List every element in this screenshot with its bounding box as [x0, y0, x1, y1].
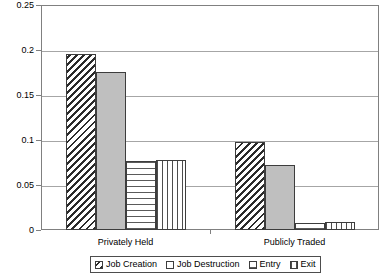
- x-axis-category-label: Publicly Traded: [264, 237, 326, 247]
- x-axis-category-label: Privately Held: [98, 237, 154, 247]
- bar-chart: 00.050.10.150.20.25 Privately HeldPublic…: [0, 0, 387, 276]
- x-axis-tick-mark: [210, 230, 211, 234]
- y-axis-tick-label: 0.1: [21, 136, 34, 145]
- legend-swatch-icon: [290, 261, 298, 269]
- legend-item-exit[interactable]: Exit: [290, 260, 316, 269]
- bar-job-creation-publicly-traded: [235, 142, 265, 230]
- legend-swatch-icon: [95, 261, 103, 269]
- legend-swatch-icon: [166, 261, 174, 269]
- legend-item-job-creation[interactable]: Job Creation: [95, 260, 157, 269]
- bar-job-creation-privately-held: [66, 54, 96, 230]
- legend-item-entry[interactable]: Entry: [249, 260, 281, 269]
- legend-item-job-destruction[interactable]: Job Destruction: [166, 260, 240, 269]
- bar-exit-publicly-traded: [325, 222, 355, 230]
- x-axis: Privately HeldPublicly Traded: [41, 230, 379, 252]
- bar-entry-privately-held: [126, 161, 156, 230]
- y-axis-tick-label: 0.2: [21, 46, 34, 55]
- y-axis-tick-label: 0.15: [16, 91, 34, 100]
- legend-item-label: Exit: [301, 260, 316, 269]
- legend-swatch-icon: [249, 261, 257, 269]
- bar-exit-privately-held: [156, 160, 186, 230]
- legend-item-label: Job Creation: [106, 260, 157, 269]
- legend-item-label: Job Destruction: [177, 260, 240, 269]
- bar-job-destruction-privately-held: [96, 72, 126, 230]
- bar-entry-publicly-traded: [295, 223, 325, 230]
- bars-layer: [41, 5, 379, 230]
- y-axis-tick-label: 0: [29, 226, 34, 235]
- chart-legend: Job CreationJob DestructionEntryExit: [90, 256, 321, 273]
- y-axis-tick-label: 0.05: [16, 181, 34, 190]
- legend-item-label: Entry: [260, 260, 281, 269]
- y-axis: 00.050.10.150.20.25: [0, 0, 41, 236]
- bar-job-destruction-publicly-traded: [265, 165, 295, 230]
- y-axis-tick-label: 0.25: [16, 1, 34, 10]
